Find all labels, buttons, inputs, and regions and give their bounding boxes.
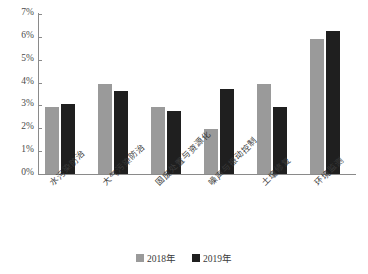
bar-2019[interactable] (326, 31, 340, 174)
legend-item[interactable]: 2018年 (136, 251, 176, 265)
legend-label: 2019年 (203, 251, 232, 265)
y-axis-tick-label: 2% (21, 121, 34, 131)
y-axis-tick-mark (39, 174, 42, 175)
legend-item[interactable]: 2019年 (192, 251, 232, 265)
bar-2018[interactable] (310, 39, 324, 174)
bar-group (303, 14, 356, 174)
bar-group (250, 14, 303, 174)
bar-2018[interactable] (45, 107, 59, 174)
bar-2018[interactable] (98, 84, 112, 174)
bar-chart: 0%1%2%3%4%5%6%7% 水污染防治大气污染防治固废处置与资源化噪声与振… (0, 0, 368, 274)
x-axis-line (38, 174, 356, 175)
bar-2018[interactable] (151, 107, 165, 174)
y-axis-tick-label: 0% (21, 167, 34, 177)
legend-swatch-2019 (192, 254, 200, 262)
y-axis-tick-label: 4% (21, 76, 34, 86)
chart-legend: 2018年2019年 (0, 251, 368, 265)
y-axis-tick-label: 6% (21, 30, 34, 40)
y-axis-tick-label: 5% (21, 53, 34, 63)
y-axis-tick-label: 1% (21, 144, 34, 154)
legend-label: 2018年 (147, 251, 176, 265)
legend-swatch-2018 (136, 254, 144, 262)
y-axis-tick-label: 3% (21, 98, 34, 108)
bar-2018[interactable] (257, 84, 271, 174)
y-axis-tick-label: 7% (21, 7, 34, 17)
